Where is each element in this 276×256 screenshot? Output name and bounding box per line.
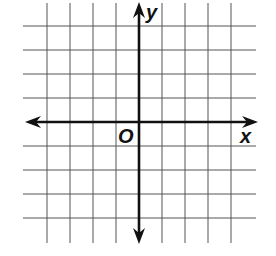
y-axis-label: y [145, 1, 158, 23]
origin-label: O [118, 125, 134, 147]
coordinate-plane: y x O [0, 0, 276, 256]
x-axis-label: x [239, 125, 252, 147]
axes [25, 2, 258, 244]
